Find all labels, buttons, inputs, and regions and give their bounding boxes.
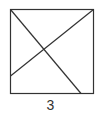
square-outline xyxy=(11,10,94,94)
diagonal-line-1 xyxy=(11,10,82,94)
diagonal-line-2 xyxy=(11,10,94,77)
figure-label: 3 xyxy=(0,97,101,113)
